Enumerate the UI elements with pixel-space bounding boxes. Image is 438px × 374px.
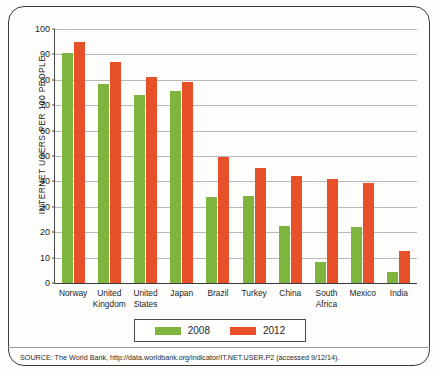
bar-2012 <box>74 42 85 283</box>
y-tick-label-60: 60 <box>40 126 50 136</box>
figure-container: INTERNET USERS PER 100 PEOPLE 0102030405… <box>0 0 438 374</box>
y-tick-label-80: 80 <box>40 75 50 85</box>
chart-legend: 2008 2012 <box>134 319 306 342</box>
legend-swatch-2008 <box>155 327 181 335</box>
bar-group: Brazil <box>200 29 236 283</box>
bar-group: UnitedKingdom <box>91 29 127 283</box>
y-tick-label-20: 20 <box>40 227 50 237</box>
bar-2012 <box>146 77 157 283</box>
bar-2008 <box>243 196 254 283</box>
bar-2008 <box>170 91 181 283</box>
legend-label-2012: 2012 <box>263 325 285 336</box>
bar-2012 <box>327 179 338 283</box>
bar-group: Mexico <box>345 29 381 283</box>
x-axis-label: India <box>371 288 427 299</box>
y-tick-label-100: 100 <box>35 24 50 34</box>
bar-2012 <box>399 251 410 283</box>
y-tick-label-90: 90 <box>40 49 50 59</box>
bar-2012 <box>110 62 121 283</box>
source-note: SOURCE: The World Bank, http://data.worl… <box>20 353 339 362</box>
bar-group: Norway <box>55 29 91 283</box>
plot-area: 0102030405060708090100NorwayUnitedKingdo… <box>54 29 417 284</box>
bar-2008 <box>98 84 109 283</box>
y-tick-label-40: 40 <box>40 176 50 186</box>
bar-group: India <box>381 29 417 283</box>
bar-chart: INTERNET USERS PER 100 PEOPLE 0102030405… <box>8 6 430 366</box>
source-divider <box>8 347 430 348</box>
bar-2012 <box>255 168 266 283</box>
legend-item-2012: 2012 <box>230 325 285 336</box>
bar-2008 <box>279 226 290 283</box>
bar-2012 <box>363 183 374 283</box>
bar-2008 <box>206 197 217 283</box>
y-tick-label-50: 50 <box>40 151 50 161</box>
bar-2008 <box>134 95 145 283</box>
legend-label-2008: 2008 <box>188 325 210 336</box>
y-tick-label-10: 10 <box>40 253 50 263</box>
bar-group: Turkey <box>236 29 272 283</box>
bar-group: UnitedStates <box>127 29 163 283</box>
bar-2012 <box>218 157 229 283</box>
y-tick-label-30: 30 <box>40 202 50 212</box>
bar-group: SouthAfrica <box>308 29 344 283</box>
bar-2012 <box>182 82 193 283</box>
bar-2012 <box>291 176 302 283</box>
y-tick-label-0: 0 <box>45 278 50 288</box>
bar-2008 <box>62 53 73 283</box>
legend-swatch-2012 <box>230 327 256 335</box>
bar-group: China <box>272 29 308 283</box>
bar-2008 <box>387 272 398 283</box>
bar-2008 <box>351 227 362 283</box>
bar-2008 <box>315 262 326 283</box>
bar-group: Japan <box>164 29 200 283</box>
y-tick-label-70: 70 <box>40 100 50 110</box>
legend-item-2008: 2008 <box>155 325 210 336</box>
